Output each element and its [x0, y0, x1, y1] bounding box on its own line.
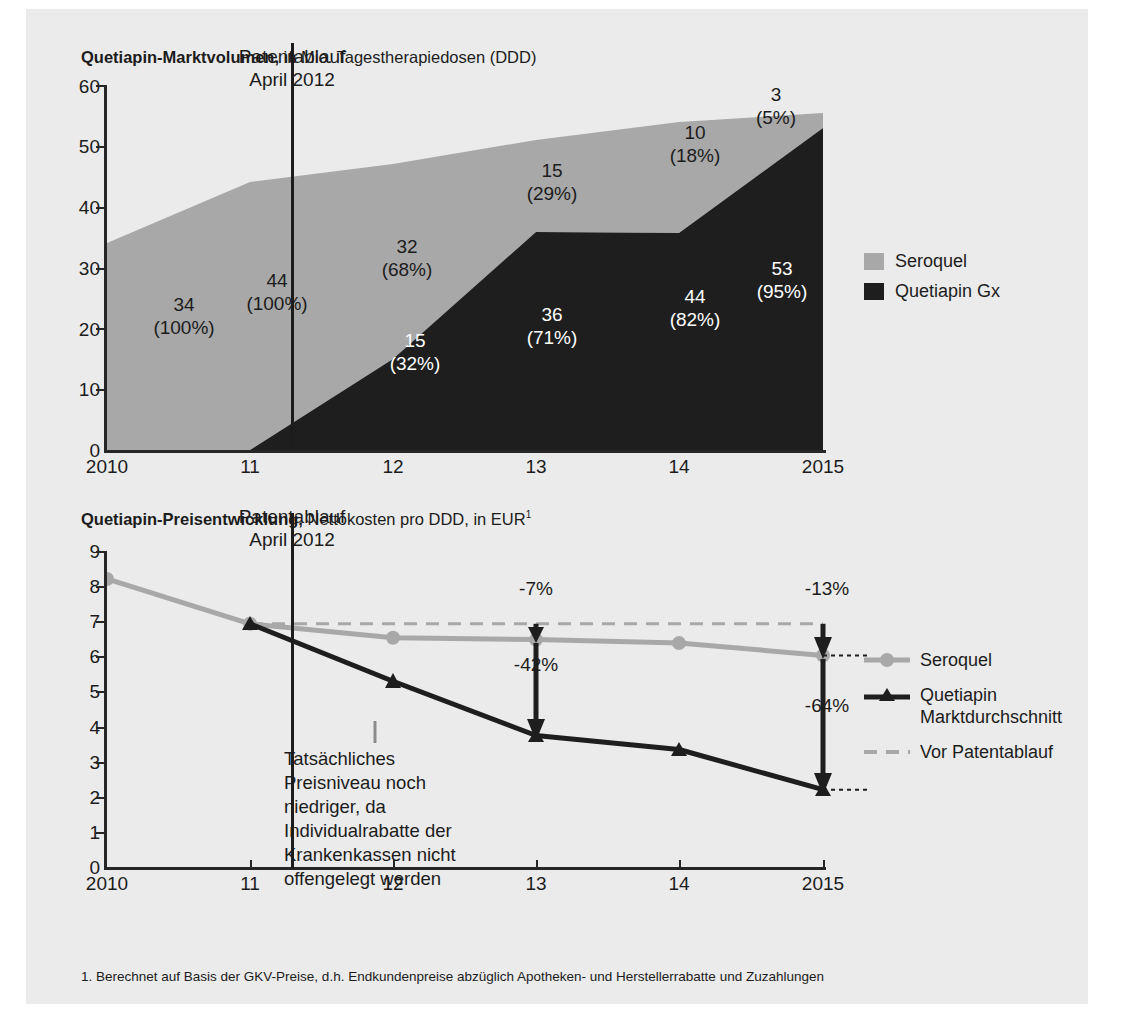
chart2-ytick-3: 3	[66, 753, 100, 772]
chart1-x-axis	[104, 450, 826, 453]
chart2-xtick-13: 13	[496, 874, 576, 893]
chart2-xtick-12: 12	[353, 874, 433, 893]
chart2-ytick-mark-8	[96, 586, 104, 588]
chart1-ytick-30: 30	[66, 259, 100, 278]
chart1-label-gx-13: 36(71%)	[497, 303, 607, 349]
chart1-legend-item-quetiapin-gx[interactable]: Quetiapin Gx	[864, 276, 1000, 306]
chart2-ytick-2: 2	[66, 788, 100, 807]
chart2-legend-item-seroquel[interactable]: Seroquel	[864, 649, 1088, 671]
chart2-ytick-mark-7	[96, 621, 104, 623]
chart2-legend-key-quetiapin	[864, 684, 910, 706]
chart2-xtick-mark-11	[250, 860, 252, 868]
chart2-ytick-mark-4	[96, 727, 104, 729]
chart1-xtick-11: 11	[210, 457, 290, 476]
chart1-legend: Seroquel Quetiapin Gx	[864, 246, 1000, 306]
chart2-xtick-14: 14	[639, 874, 719, 893]
chart1-xtick-12: 12	[353, 457, 433, 476]
chart1-label-seroquel-12: 32(68%)	[352, 235, 462, 281]
chart2-title-footnote-ref: 1	[526, 509, 532, 520]
chart2-xtick-mark-12	[393, 860, 395, 868]
chart2-line-seroquel	[107, 579, 823, 655]
chart2-legend-key-seroquel	[864, 649, 910, 671]
chart1-label-seroquel-11: 44(100%)	[222, 269, 332, 315]
chart2-patent-annotation: Patentablauf April 2012	[182, 505, 402, 551]
chart1-ytick-mark-30	[96, 268, 104, 270]
chart1-ytick-mark-10	[96, 389, 104, 391]
chart1-ytick-10: 10	[66, 380, 100, 399]
chart2-legend-key-vor-patentablauf	[864, 741, 910, 763]
chart1-ytick-40: 40	[66, 198, 100, 217]
chart2-xtick-2010: 2010	[67, 874, 147, 893]
chart1-ytick-mark-50	[96, 146, 104, 148]
chart2-ytick-9: 9	[66, 542, 100, 561]
chart2-xtick-mark-13	[536, 860, 538, 868]
chart1-legend-label-quetiapin-gx: Quetiapin Gx	[895, 276, 1000, 306]
chart1-label-gx-12: 15(32%)	[360, 329, 470, 375]
chart2-plot-area: -7% -42% -13% -64% Tatsächliches Preisni…	[107, 551, 823, 869]
chart2-ytick-4: 4	[66, 718, 100, 737]
chart1-legend-label-seroquel: Seroquel	[895, 246, 967, 276]
chart2-ytick-mark-3	[96, 762, 104, 764]
chart2-lines	[107, 551, 867, 881]
chart2-annotation-note: Tatsächliches Preisniveau noch niedriger…	[284, 747, 484, 891]
chart2-ytick-mark-9	[96, 551, 104, 553]
chart2-legend-glyph-quetiapin	[864, 684, 910, 706]
chart2-delta-13: -13%	[787, 578, 867, 599]
chart2-ytick-5: 5	[66, 682, 100, 701]
chart2-delta-42: -42%	[496, 654, 576, 675]
chart2-xtick-2015: 2015	[783, 874, 863, 893]
figure-panel: Quetiapin-Marktvolumen, in Mio. Tagesthe…	[26, 9, 1088, 1004]
chart2-legend-label-vor-patentablauf: Vor Patentablauf	[920, 741, 1053, 763]
chart2-legend-glyph-dashed	[864, 741, 910, 763]
chart2-marker-seroquel-14	[672, 636, 686, 650]
chart1-label-seroquel-13: 15(29%)	[497, 159, 607, 205]
chart1-ytick-mark-40	[96, 207, 104, 209]
chart2-delta-64: -64%	[787, 695, 867, 716]
chart1-xtick-2010: 2010	[67, 457, 147, 476]
chart2-xtick-mark-2015	[823, 860, 825, 868]
chart2-patent-line2: April 2012	[249, 529, 335, 550]
chart2-ytick-8: 8	[66, 577, 100, 596]
chart2-legend-item-quetiapin[interactable]: Quetiapin Marktdurchschnitt	[864, 684, 1088, 728]
chart1-patent-line2: April 2012	[249, 69, 335, 90]
chart1-legend-item-seroquel[interactable]: Seroquel	[864, 246, 1000, 276]
chart1-ytick-60: 60	[66, 77, 100, 96]
chart2-ytick-mark-6	[96, 656, 104, 658]
chart1-ytick-20: 20	[66, 320, 100, 339]
chart1-patent-annotation: Patentablauf April 2012	[182, 45, 402, 91]
figure-footnote: 1. Berechnet auf Basis der GKV-Preise, d…	[81, 969, 824, 984]
chart2-legend: Seroquel Quetiapin Marktdurchschnitt Vor…	[864, 649, 1088, 776]
chart2-ytick-1: 1	[66, 823, 100, 842]
chart1-legend-swatch-quetiapin-gx	[864, 283, 884, 300]
chart2-patent-line1: Patentablauf	[239, 506, 346, 527]
chart2-legend-glyph-seroquel	[864, 649, 910, 671]
chart1-plot-area: 34(100%) 44(100%) 32(68%) 15(29%) 10(18%…	[107, 85, 823, 450]
chart2-ytick-6: 6	[66, 647, 100, 666]
chart2-ytick-mark-5	[96, 691, 104, 693]
chart1-legend-swatch-seroquel	[864, 253, 884, 270]
chart1-ytick-mark-60	[96, 85, 104, 87]
chart2-ytick-mark-1	[96, 832, 104, 834]
chart1-label-seroquel-2015: 3(5%)	[721, 83, 831, 129]
chart1-ytick-mark-20	[96, 328, 104, 330]
chart2-delta-7: -7%	[496, 578, 576, 599]
chart2-marker-seroquel-2010	[107, 572, 114, 586]
chart2-marker-seroquel-12	[386, 631, 400, 645]
chart1-label-gx-2015: 53(95%)	[727, 257, 837, 303]
chart2-xtick-11: 11	[210, 874, 290, 893]
chart1-xtick-13: 13	[496, 457, 576, 476]
chart2-ytick-mark-2	[96, 797, 104, 799]
chart2-xtick-mark-14	[679, 860, 681, 868]
chart2-legend-label-quetiapin: Quetiapin Marktdurchschnitt	[920, 684, 1088, 728]
chart2-legend-item-vor-patentablauf[interactable]: Vor Patentablauf	[864, 741, 1088, 763]
chart1-xtick-14: 14	[639, 457, 719, 476]
chart1-patent-line1: Patentablauf	[239, 46, 346, 67]
chart1-ytick-50: 50	[66, 137, 100, 156]
chart-marktvolumen: Quetiapin-Marktvolumen, in Mio. Tagesthe…	[26, 9, 1088, 469]
chart2-legend-label-seroquel: Seroquel	[920, 649, 992, 671]
chart2-arrow-64-head	[814, 773, 832, 795]
chart1-xtick-2015: 2015	[783, 457, 863, 476]
chart2-ytick-7: 7	[66, 612, 100, 631]
chart1-patent-line	[291, 43, 294, 450]
